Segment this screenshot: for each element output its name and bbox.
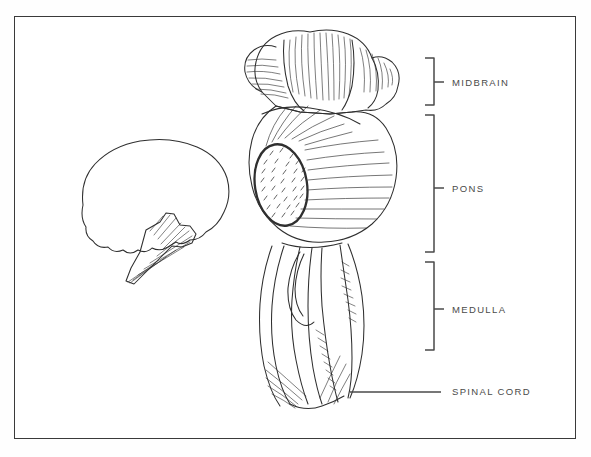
label-pons: PONS (452, 183, 484, 194)
figure-canvas: MIDBRAIN PONS MEDULLA SPINAL CORD (0, 0, 591, 457)
label-midbrain: MIDBRAIN (452, 77, 509, 88)
label-spinal-cord: SPINAL CORD (452, 386, 531, 397)
label-medulla: MEDULLA (452, 304, 506, 315)
